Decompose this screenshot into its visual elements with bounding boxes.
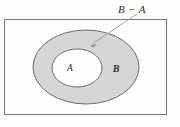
label-b-minus-a: B − A [118, 3, 146, 15]
label-b: B [112, 63, 120, 74]
label-a: A [66, 63, 73, 73]
inner-ellipse-a [52, 49, 102, 87]
diagram-canvas: B − A A B [0, 0, 180, 127]
venn-diagram-figure: B − A A B [0, 0, 180, 127]
